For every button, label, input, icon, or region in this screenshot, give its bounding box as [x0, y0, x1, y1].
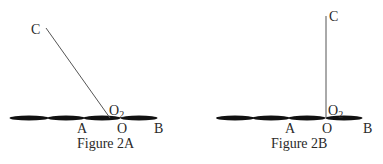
chain-links	[10, 115, 158, 120]
chain-link	[48, 115, 85, 120]
label-o: O	[322, 121, 332, 136]
chain-link	[253, 115, 290, 120]
rod-oc	[46, 28, 110, 118]
caption-figure-2a: Figure 2A	[77, 136, 135, 151]
caption-figure-2b: Figure 2B	[271, 136, 327, 151]
label-a: A	[77, 121, 88, 136]
label-o2: O2	[109, 103, 124, 120]
diagram-canvas: C O2 A O B Figure 2A C O2 A O B Figure 2…	[0, 0, 383, 164]
figure-2a: C O2 A O B Figure 2A	[10, 22, 164, 151]
label-o2: O2	[328, 103, 343, 120]
label-c: C	[31, 22, 40, 37]
figure-2b: C O2 A O B Figure 2B	[216, 9, 372, 151]
label-o: O	[117, 121, 127, 136]
label-b: B	[363, 121, 372, 136]
chain-link	[121, 115, 158, 120]
label-a: A	[285, 121, 296, 136]
label-c: C	[329, 9, 338, 24]
chain-link	[289, 115, 326, 120]
chain-link	[10, 115, 49, 120]
chain-link	[216, 115, 254, 120]
label-b: B	[154, 121, 163, 136]
